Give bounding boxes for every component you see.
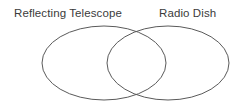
venn-label-right: Radio Dish bbox=[159, 6, 216, 20]
venn-label-left: Reflecting Telescope bbox=[14, 6, 122, 20]
venn-diagram-canvas: Reflecting Telescope Radio Dish bbox=[0, 0, 232, 101]
venn-circle-reflecting-telescope bbox=[42, 26, 166, 100]
venn-circle-radio-dish bbox=[107, 26, 229, 100]
